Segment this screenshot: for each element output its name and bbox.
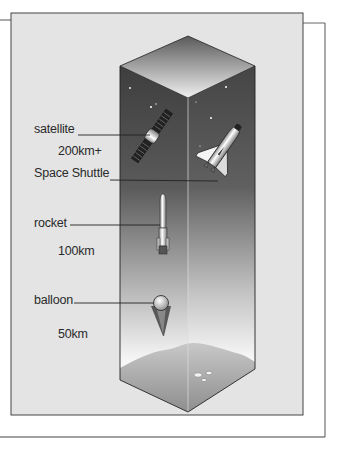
label-balloon-altitude: 50km <box>58 327 88 341</box>
label-rocket-altitude: 100km <box>58 244 95 258</box>
label-satellite-altitude: 200km+ <box>58 144 102 158</box>
label-satellite: satellite <box>34 122 75 136</box>
label-rocket: rocket <box>34 216 67 230</box>
label-space-shuttle: Space Shuttle <box>34 166 109 180</box>
label-balloon: balloon <box>34 293 73 307</box>
